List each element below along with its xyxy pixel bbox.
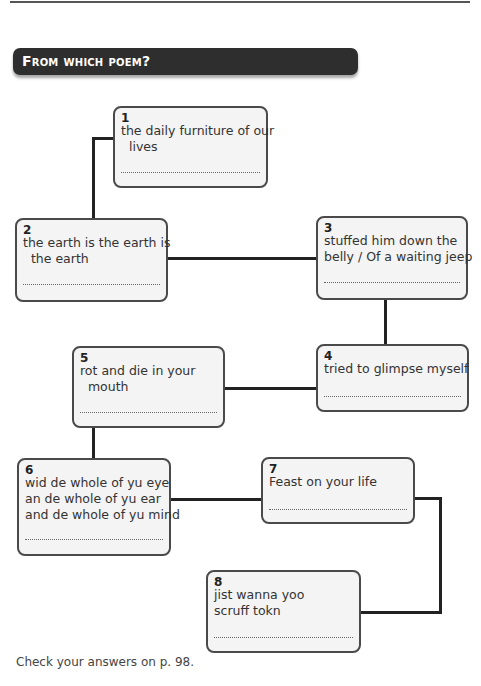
answer-line[interactable]: [324, 396, 461, 397]
quote-text: the earth is the earth is the earth: [23, 235, 171, 267]
top-rule: [10, 1, 470, 3]
connector-4-5: [223, 387, 317, 390]
answer-line[interactable]: [121, 172, 260, 173]
quote-box-1: 1 the daily furniture of our lives: [113, 106, 268, 188]
quote-box-7: 7 Feast on your life: [261, 457, 415, 524]
quote-box-3: 3 stuffed him down the belly / Of a wait…: [316, 216, 468, 300]
connector-7-8-top: [413, 497, 442, 500]
connector-3-4: [384, 298, 387, 345]
quote-text: stuffed him down the belly / Of a waitin…: [324, 233, 472, 265]
quote-text: wid de whole of yu eye an de whole of yu…: [25, 475, 180, 523]
answer-line[interactable]: [80, 412, 217, 413]
connector-2-3: [166, 257, 317, 260]
connector-6-7: [169, 498, 262, 501]
footer-note: Check your answers on p. 98.: [16, 655, 194, 669]
connector-5-6: [92, 426, 95, 459]
answer-line[interactable]: [269, 509, 407, 510]
connector-1-2: [92, 137, 114, 140]
answer-line[interactable]: [324, 282, 460, 283]
connector-1-2-vertical: [92, 137, 95, 219]
quote-text: tried to glimpse myself: [324, 361, 468, 377]
quote-text: rot and die in your mouth: [80, 363, 195, 395]
quote-box-6: 6 wid de whole of yu eye an de whole of …: [17, 458, 171, 556]
quote-box-2: 2 the earth is the earth is the earth: [15, 218, 168, 302]
section-title: From which poem?: [22, 53, 150, 69]
connector-7-8-bottom: [359, 611, 442, 614]
answer-line[interactable]: [23, 284, 160, 285]
quote-text: jist wanna yoo scruff tokn: [214, 587, 304, 619]
quote-text: the daily furniture of our lives: [121, 123, 274, 155]
connector-7-8-vertical: [439, 497, 442, 614]
answer-line[interactable]: [25, 539, 163, 540]
section-banner: From which poem?: [13, 48, 358, 75]
quote-text: Feast on your life: [269, 474, 377, 490]
quote-box-8: 8 jist wanna yoo scruff tokn: [206, 570, 361, 653]
quote-box-4: 4 tried to glimpse myself: [316, 344, 469, 412]
answer-line[interactable]: [214, 637, 353, 638]
quote-box-5: 5 rot and die in your mouth: [72, 346, 225, 428]
